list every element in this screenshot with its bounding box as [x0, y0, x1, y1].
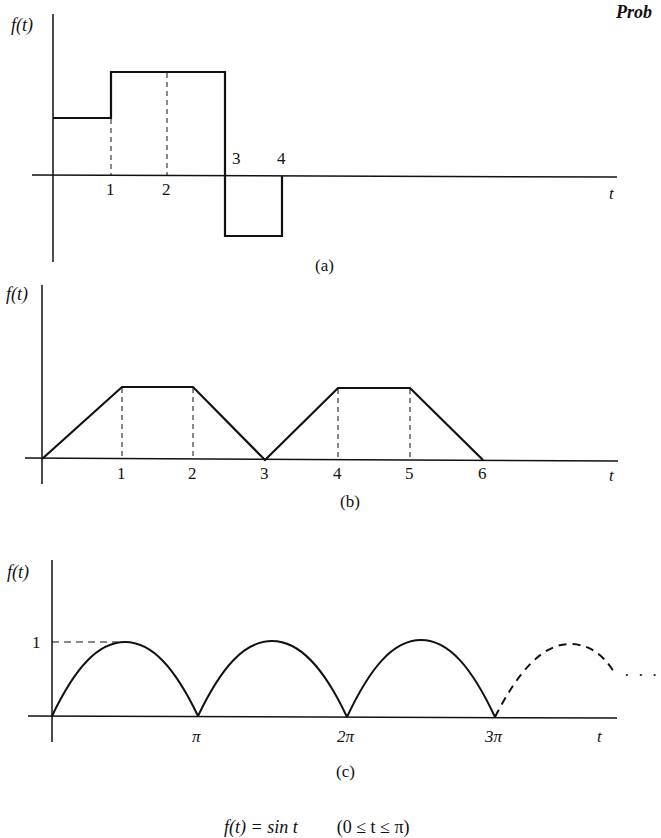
- panel-c-sine-arch-dashed: [495, 644, 614, 717]
- panel-b-x-axis: [25, 458, 618, 461]
- panel-a-xlabel: t: [609, 185, 614, 202]
- panel-c-ylabel: f(t): [7, 563, 29, 581]
- panel-c-sine-arch-2: [198, 641, 347, 717]
- figure-canvas: [0, 0, 661, 838]
- panel-a-ylabel: f(t): [11, 16, 33, 34]
- formula-domain: (0 ≤ t ≤ π): [337, 817, 410, 837]
- panel-a-plot: [32, 14, 617, 262]
- panel-b-tick-2: 2: [188, 465, 197, 482]
- panel-b-tick-3: 3: [260, 465, 269, 482]
- formula-text: f(t) = sin t: [224, 817, 298, 837]
- panel-b-trapezoid-curve: [42, 387, 483, 460]
- panel-c-tick-2pi: 2π: [337, 728, 354, 745]
- panel-c-tick-pi: π: [192, 728, 201, 745]
- panel-c-caption: (c): [336, 763, 355, 780]
- panel-c-sine-arch-3: [347, 640, 495, 717]
- panel-b-ylabel: f(t): [6, 285, 28, 303]
- panel-c-ytick-1: 1: [32, 634, 41, 651]
- panel-c-x-axis: [28, 716, 617, 718]
- panel-c-xlabel: t: [597, 728, 602, 745]
- panel-b-caption: (b): [340, 493, 360, 510]
- panel-b-xlabel: t: [609, 467, 614, 484]
- panel-b-tick-1: 1: [117, 465, 126, 482]
- panel-b-tick-5: 5: [405, 465, 414, 482]
- panel-a-tick-1: 1: [106, 181, 115, 198]
- panel-c-plot: [28, 560, 617, 742]
- panel-b-tick-4: 4: [333, 465, 342, 482]
- panel-c-tick-3pi: 3π: [485, 728, 502, 745]
- panel-a-tick-3: 3: [232, 150, 241, 167]
- panel-c-formula: f(t) = sin t (0 ≤ t ≤ π): [224, 818, 410, 836]
- panel-b-tick-6: 6: [478, 465, 487, 482]
- panel-a-tick-2: 2: [162, 181, 171, 198]
- running-head: Prob: [616, 3, 652, 21]
- panel-a-caption: (a): [315, 257, 334, 274]
- panel-a-tick-4: 4: [277, 150, 286, 167]
- panel-c-continuation-dots: · · ·: [624, 667, 659, 684]
- panel-b-plot: [25, 285, 618, 484]
- panel-a-x-axis: [32, 175, 617, 177]
- panel-c-sine-arch-1: [52, 642, 198, 716]
